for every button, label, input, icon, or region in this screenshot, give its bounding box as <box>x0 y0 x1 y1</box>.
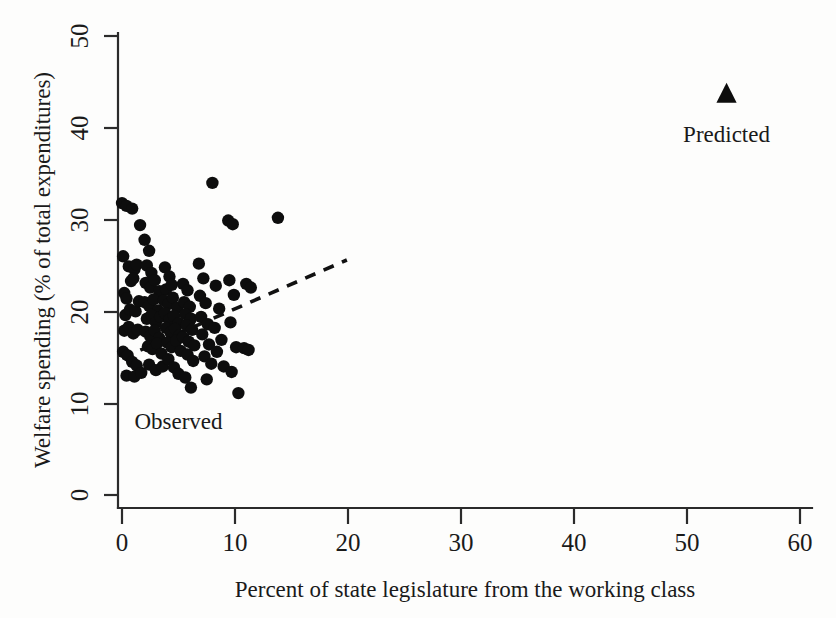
data-point <box>245 281 257 293</box>
x-tick-label-10: 10 <box>223 529 248 556</box>
y-tick-labels: 50 40 30 20 10 0 <box>66 24 93 502</box>
annotation-predicted: Predicted <box>683 122 770 147</box>
y-tick-label-30: 30 <box>66 208 93 233</box>
data-point <box>201 373 213 385</box>
data-point <box>185 381 197 393</box>
data-point <box>120 292 132 304</box>
predicted-triangle-marker <box>716 83 736 103</box>
data-point <box>213 302 225 314</box>
y-tick-label-50: 50 <box>66 24 93 49</box>
data-point <box>187 355 199 367</box>
data-point <box>205 358 217 370</box>
data-point <box>166 279 178 291</box>
data-point <box>225 366 237 378</box>
axes-group <box>118 33 812 508</box>
x-tick-label-0: 0 <box>116 529 129 556</box>
x-tick-label-50: 50 <box>675 529 700 556</box>
data-point <box>227 218 239 230</box>
x-tick-marks <box>122 508 800 524</box>
data-point <box>199 297 211 309</box>
data-point <box>272 212 284 224</box>
y-axis-title: Welfare spending (% of total expenditure… <box>30 72 55 468</box>
data-point <box>215 334 227 346</box>
data-point <box>149 274 161 286</box>
data-point <box>211 346 223 358</box>
scatter-plot: 50 40 30 20 10 0 0 10 20 30 40 50 60 Wel… <box>0 0 836 618</box>
data-point <box>223 274 235 286</box>
data-point <box>208 322 220 334</box>
data-point <box>206 177 218 189</box>
data-point <box>143 245 155 257</box>
x-tick-label-60: 60 <box>788 529 813 556</box>
x-tick-label-40: 40 <box>562 529 587 556</box>
chart-figure: 50 40 30 20 10 0 0 10 20 30 40 50 60 Wel… <box>0 0 836 618</box>
data-point <box>210 279 222 291</box>
data-point <box>126 202 138 214</box>
data-point <box>232 387 244 399</box>
predicted-marker-layer <box>716 83 736 103</box>
y-tick-label-40: 40 <box>66 116 93 141</box>
data-point <box>242 344 254 356</box>
data-point <box>228 289 240 301</box>
x-axis-title: Percent of state legislature from the wo… <box>235 577 696 602</box>
y-tick-marks <box>104 36 118 495</box>
data-point <box>197 272 209 284</box>
annotation-observed: Observed <box>134 409 223 434</box>
observed-points-layer <box>116 177 284 400</box>
data-point <box>224 316 236 328</box>
data-point <box>127 272 139 284</box>
data-point <box>138 234 150 246</box>
x-tick-label-30: 30 <box>449 529 474 556</box>
data-point <box>193 257 205 269</box>
data-point <box>196 328 208 340</box>
data-point <box>181 284 193 296</box>
x-tick-labels: 0 10 20 30 40 50 60 <box>116 529 813 556</box>
x-tick-label-20: 20 <box>336 529 361 556</box>
data-point <box>134 219 146 231</box>
y-tick-label-0: 0 <box>66 489 93 502</box>
y-tick-label-10: 10 <box>66 392 93 417</box>
y-tick-label-20: 20 <box>66 300 93 325</box>
